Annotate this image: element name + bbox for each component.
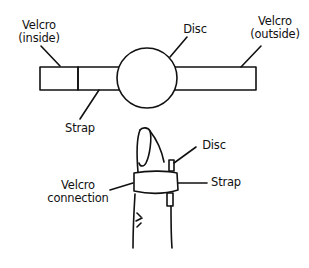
label-strap-finger-text: Strap — [206, 176, 246, 189]
strap-left-segment — [78, 67, 120, 90]
disc-circle — [117, 48, 177, 108]
label-velcro-inside: Velcro (inside) — [14, 19, 64, 45]
label-strap-top: Strap — [60, 122, 100, 135]
velcro-outside-segment — [175, 67, 256, 90]
finger-strap-diagram: Velcro (inside) Disc Velcro (outside) St… — [0, 0, 309, 268]
finger-drawing — [133, 128, 178, 248]
strap-band — [134, 171, 178, 193]
label-velcro-outside: Velcro (outside) — [246, 15, 304, 41]
label-disc-top-text: Disc — [178, 23, 212, 36]
label-strap-top-text: Strap — [60, 122, 100, 135]
label-strap-finger: Strap — [206, 176, 246, 189]
label-velcro-connection-line2: connection — [45, 192, 111, 205]
label-velcro-outside-line2: (outside) — [246, 28, 304, 41]
label-disc-finger: Disc — [197, 139, 231, 152]
label-velcro-connection: Velcro connection — [45, 179, 111, 205]
velcro-inside-segment — [40, 67, 78, 90]
strap-top-view — [40, 48, 256, 108]
label-velcro-inside-line2: (inside) — [14, 32, 64, 45]
label-disc-top: Disc — [178, 23, 212, 36]
label-disc-finger-text: Disc — [197, 139, 231, 152]
